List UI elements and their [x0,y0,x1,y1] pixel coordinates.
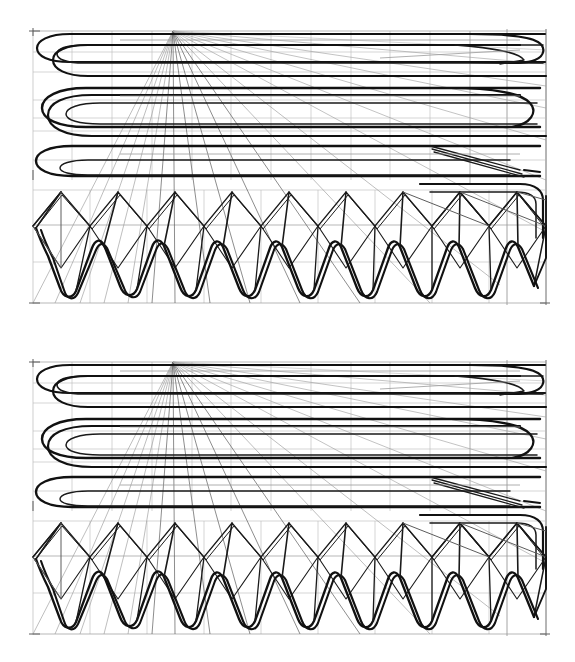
sketch-canvas: Top panel [0,0,575,662]
zigzag-right-facet [403,192,546,286]
serpentine-tube [36,34,546,240]
zigzag-front-wave [36,192,538,298]
panel-top: Top panel [0,0,575,331]
zigzag-front-wave [36,523,538,629]
serpentine-tube [36,365,546,571]
panel-bottom: Bottom panel [0,331,575,662]
zigzag-right-facet [403,523,546,617]
